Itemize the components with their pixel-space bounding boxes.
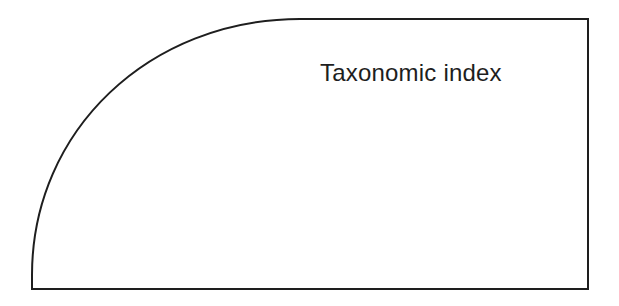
diagram-canvas: Taxonomic index bbox=[0, 0, 619, 306]
rounded-region-shape bbox=[0, 0, 619, 306]
region-label: Taxonomic index bbox=[320, 59, 502, 87]
